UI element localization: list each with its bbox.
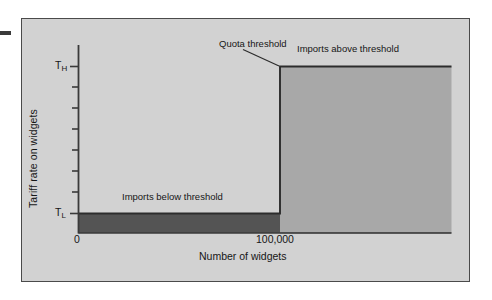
y-tick-label-low: TL [55, 206, 66, 218]
annotation-quota-threshold: Quota threshold [219, 38, 287, 49]
y-axis-title: Tariff rate on widgets [27, 190, 39, 208]
page-edge-mark [0, 31, 11, 35]
annotation-imports-above-threshold: Imports above threshold [297, 43, 399, 54]
annotation-imports-below-threshold: Imports below threshold [122, 191, 223, 202]
screenshot-canvas: Tariff rate on widgets Number of widgets… [0, 0, 492, 300]
x-axis-title: Number of widgets [199, 250, 287, 262]
y-tick-label-high-subscript: H [61, 64, 67, 73]
x-tick-label-origin: 0 [74, 233, 80, 245]
y-tick-label-low-subscript: L [61, 211, 65, 220]
figure-frame [21, 18, 470, 282]
x-tick-label-quota: 100,000 [256, 233, 294, 245]
y-tick-label-high: TH [55, 59, 67, 71]
